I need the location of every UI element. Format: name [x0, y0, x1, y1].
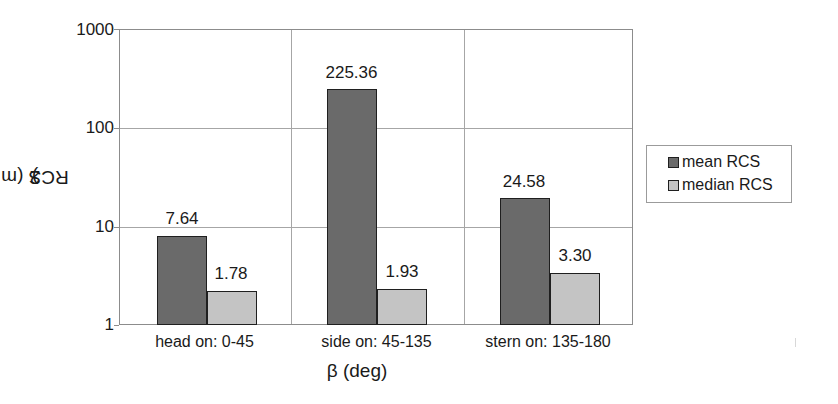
x-axis-title: β (deg): [0, 360, 838, 382]
legend-label-mean: mean RCS: [682, 154, 760, 170]
bar-value-median-head-on: 1.78: [201, 265, 261, 282]
bar-mean-side-on[interactable]: [327, 89, 377, 325]
chart-figure: 1000 100 10 1 RCS (m2) 7.64 1: [0, 0, 838, 404]
y-tick-label-1000: 1000: [76, 21, 114, 38]
x-tick-label-head-on: head on: 0-45: [119, 333, 290, 351]
bar-value-mean-stern-on: 24.58: [490, 173, 558, 190]
bar-value-median-stern-on: 3.30: [545, 247, 605, 264]
y-tick-label-1: 1: [105, 316, 114, 333]
legend-item-mean-rcs[interactable]: mean RCS: [668, 154, 760, 170]
bar-median-side-on[interactable]: [377, 289, 427, 325]
x-tick-label-stern-on: stern on: 135-180: [463, 333, 633, 351]
legend-swatch-icon-median: [668, 180, 679, 191]
category-divider-1: [291, 30, 292, 324]
y-tick-label-100: 100: [86, 119, 114, 136]
y-tick-label-10: 10: [95, 218, 114, 235]
bar-mean-head-on[interactable]: [157, 236, 207, 325]
bar-median-stern-on[interactable]: [550, 273, 600, 325]
x-axis-title-text: β (deg): [327, 360, 388, 381]
y-axis-title-tail: ): [32, 166, 38, 188]
bar-value-mean-head-on: 7.64: [152, 210, 212, 227]
bar-value-median-side-on: 1.93: [372, 263, 432, 280]
category-divider-2: [464, 30, 465, 324]
scan-artifact: [795, 338, 796, 347]
y-axis-tick-labels: 1000 100 10 1: [30, 0, 114, 404]
chart-legend: mean RCS median RCS: [646, 145, 792, 203]
y-tick-mark-1: [114, 325, 119, 326]
bar-median-head-on[interactable]: [207, 291, 257, 325]
x-tick-label-side-on: side on: 45-135: [290, 333, 463, 351]
bar-mean-stern-on[interactable]: [500, 198, 550, 325]
bar-value-mean-side-on: 225.36: [314, 64, 389, 81]
legend-item-median-rcs[interactable]: median RCS: [668, 177, 773, 193]
legend-label-median: median RCS: [682, 177, 773, 193]
legend-swatch-icon-mean: [668, 157, 679, 168]
